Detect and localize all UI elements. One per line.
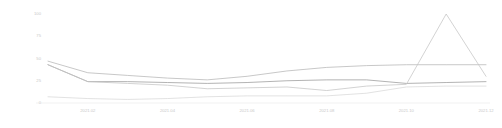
- x-tick-label: 2021.10: [399, 108, 415, 113]
- x-tick-label: 2021.02: [80, 108, 96, 113]
- y-tick-label: 75: [36, 33, 41, 38]
- series-line-series-1: [48, 61, 486, 80]
- series-line-series-3: [48, 14, 486, 91]
- series-line-series-4: [48, 86, 486, 99]
- x-tick-label: 2021.12: [478, 108, 494, 113]
- x-axis-tick-labels: 2021.022021.042021.062021.082021.102021.…: [80, 108, 494, 113]
- x-tick-label: 2021.04: [160, 108, 176, 113]
- y-tick-label: 25: [36, 78, 41, 83]
- line-chart-container: 0255075100 2021.022021.042021.062021.082…: [0, 0, 502, 128]
- y-axis-tick-labels: 0255075100: [34, 11, 42, 105]
- series-line-series-2: [48, 65, 486, 84]
- chart-canvas: 0255075100 2021.022021.042021.062021.082…: [0, 0, 502, 128]
- y-tick-label: 100: [34, 11, 42, 16]
- y-tick-label: 0: [39, 100, 42, 105]
- x-tick-label: 2021.08: [319, 108, 335, 113]
- x-tick-label: 2021.06: [240, 108, 256, 113]
- y-tick-label: 50: [36, 56, 41, 61]
- data-series-group: [48, 14, 486, 99]
